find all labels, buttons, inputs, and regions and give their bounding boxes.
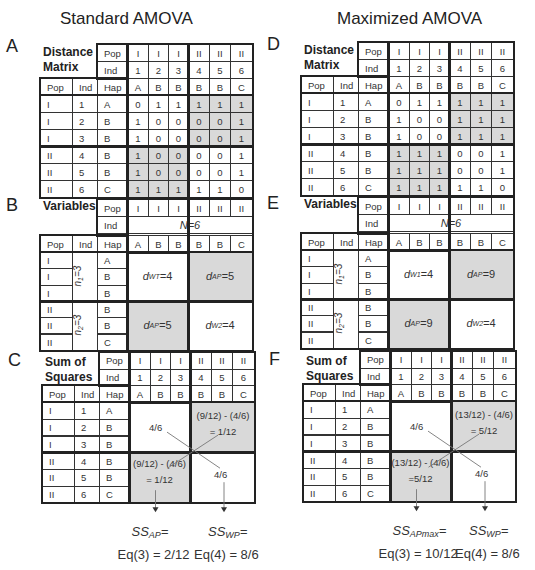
row-pop: I xyxy=(303,435,336,453)
distance-cell: 1 xyxy=(491,127,514,145)
header-pop-5: II xyxy=(470,197,492,215)
distance-cell: 1 xyxy=(148,95,169,113)
distance-cell: 0 xyxy=(188,112,210,130)
row-hap: B xyxy=(360,418,391,436)
col-header-ind: Ind xyxy=(72,235,98,253)
n-symbol: n xyxy=(333,328,344,334)
distance-cell: 1 xyxy=(470,127,492,145)
row-ind: 3 xyxy=(72,129,98,147)
header-pop-4: II xyxy=(188,44,210,62)
distance-cell: 1 xyxy=(429,178,450,196)
within-top-value: 4/6 xyxy=(149,422,162,433)
block-d-w1: dWT=4 xyxy=(127,252,188,301)
row-hap: B xyxy=(358,266,389,283)
distance-cell: 1 xyxy=(449,178,471,196)
block-d-w2: dW2=4 xyxy=(188,301,252,350)
panel-letter: F xyxy=(269,349,280,370)
row-hap: C xyxy=(360,485,391,503)
header-hap-6: C xyxy=(491,233,514,251)
header-n-total: N=6 xyxy=(127,216,253,234)
row-pop: I xyxy=(42,402,75,420)
col-header-pop: Pop xyxy=(42,385,75,403)
among-bottom-result: =5/12 xyxy=(390,473,451,484)
panel-title-line2: Matrix xyxy=(304,57,339,74)
panel-letter: B xyxy=(6,195,18,216)
row-pop: I xyxy=(42,419,75,437)
header-hap-5: B xyxy=(209,235,231,253)
header-ind-4: 4 xyxy=(451,368,473,386)
col-header-ind: Ind xyxy=(333,76,359,94)
distance-cell: 1 xyxy=(188,180,210,198)
row-ind: 4 xyxy=(72,146,98,164)
n1-value: =3 xyxy=(333,264,344,275)
header-pop-5: II xyxy=(472,351,494,369)
row-hap: B xyxy=(360,435,391,453)
among-bottom-expr: (9/12) - (4/6) xyxy=(129,458,190,469)
distance-cell: 0 xyxy=(209,129,231,147)
row-hap: B xyxy=(97,112,128,130)
block-d-w2: dW2=4 xyxy=(449,299,513,348)
col-header-hap: Hap xyxy=(99,385,130,403)
row-pop: II xyxy=(301,178,334,196)
row-ind: 6 xyxy=(333,178,359,196)
distance-cell: 1 xyxy=(429,144,450,162)
header-ind-label: Ind xyxy=(358,214,389,232)
row-pop: II xyxy=(42,486,75,504)
row-ind: 4 xyxy=(333,144,359,162)
row-ind: 5 xyxy=(335,468,361,486)
panel-letter: D xyxy=(267,34,280,55)
row-hap: B xyxy=(358,127,389,145)
header-hap-1: A xyxy=(388,76,410,94)
row-ind: 4 xyxy=(335,451,361,469)
ss-among-equation: Eq(3) = 2/12 xyxy=(118,547,190,562)
header-ind-3: 3 xyxy=(431,368,452,386)
distance-cell: 0 xyxy=(148,112,169,130)
header-pop-6: II xyxy=(493,351,516,369)
header-hap-6: C xyxy=(493,384,516,402)
header-ind-label: Ind xyxy=(97,61,128,79)
row-ind: 1 xyxy=(333,93,359,111)
within-top-value: 4/6 xyxy=(410,421,423,432)
row-hap: C xyxy=(358,332,389,349)
panel-letter: C xyxy=(8,350,21,371)
header-hap-1: A xyxy=(127,235,149,253)
distance-cell: 1 xyxy=(409,93,430,111)
distance-cell: 1 xyxy=(491,144,514,162)
header-hap-3: B xyxy=(429,233,450,251)
n2-label: n2=3 xyxy=(72,315,84,336)
row-hap: B xyxy=(358,315,389,332)
col-header-hap: Hap xyxy=(97,78,128,96)
row-pop: II xyxy=(40,163,73,181)
distance-cell: 1 xyxy=(209,180,231,198)
distance-cell: 1 xyxy=(449,110,471,128)
d-value: 5 xyxy=(165,319,171,331)
header-hap-1: A xyxy=(390,384,412,402)
header-pop-3: I xyxy=(170,352,191,370)
ss-symbol: SS xyxy=(469,523,486,538)
distance-cell: 1 xyxy=(188,95,210,113)
d-value: 4 xyxy=(166,270,172,282)
header-hap-4: B xyxy=(449,76,471,94)
header-hap-4: B xyxy=(188,78,210,96)
distance-cell: 1 xyxy=(148,180,169,198)
d-subscript: AP xyxy=(150,322,159,329)
distance-cell: 0 xyxy=(168,146,189,164)
distance-cell: 1 xyxy=(388,144,410,162)
block-d-ap-bottom: dAP=5 xyxy=(127,301,188,350)
ss-within-label: SSWP= xyxy=(469,523,508,539)
row-pop: II xyxy=(301,299,334,316)
header-hap-6: C xyxy=(232,385,255,403)
row-ind: 1 xyxy=(72,95,98,113)
header-pop-6: II xyxy=(230,44,253,62)
row-hap: B xyxy=(358,144,389,162)
row-pop: I xyxy=(40,95,73,113)
row-ind: 3 xyxy=(333,127,359,145)
row-pop: II xyxy=(301,315,334,332)
distance-cell: 1 xyxy=(429,161,450,179)
n-symbol: n xyxy=(72,281,83,287)
header-hap-1: A xyxy=(127,78,149,96)
header-hap-5: B xyxy=(470,233,492,251)
header-ind-1: 1 xyxy=(388,59,410,77)
distance-cell: 1 xyxy=(230,163,253,181)
distance-cell: 1 xyxy=(491,110,514,128)
